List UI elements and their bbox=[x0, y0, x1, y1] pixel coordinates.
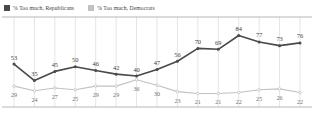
legend-swatch-republicans-icon bbox=[4, 5, 10, 11]
data-label: 70 bbox=[195, 38, 201, 45]
data-label: 77 bbox=[256, 31, 263, 38]
data-point bbox=[197, 92, 200, 95]
data-label: 76 bbox=[297, 32, 303, 39]
data-label: 69 bbox=[215, 39, 221, 46]
legend-label-republicans: % Too much, Republicans bbox=[13, 5, 74, 11]
data-label: 29 bbox=[11, 92, 17, 98]
line-chart-svg: 292427252929363023212122252622 533545504… bbox=[0, 16, 314, 123]
data-label: 53 bbox=[11, 54, 17, 61]
data-label: 46 bbox=[93, 60, 99, 67]
data-point bbox=[217, 92, 220, 95]
data-point bbox=[94, 85, 97, 88]
data-label: 50 bbox=[72, 56, 78, 63]
data-label: 23 bbox=[174, 98, 180, 104]
data-point bbox=[115, 73, 118, 76]
data-point bbox=[299, 91, 302, 94]
data-point bbox=[135, 75, 138, 78]
data-label: 30 bbox=[154, 91, 160, 97]
data-label: 29 bbox=[93, 92, 99, 98]
data-label: 25 bbox=[256, 96, 262, 102]
data-point bbox=[94, 69, 97, 72]
data-point bbox=[237, 34, 240, 37]
data-point bbox=[54, 87, 57, 90]
data-label: 24 bbox=[31, 97, 37, 103]
data-point bbox=[53, 70, 56, 73]
data-point bbox=[217, 48, 220, 51]
data-label: 22 bbox=[236, 99, 242, 105]
data-point bbox=[74, 65, 77, 68]
legend-swatch-democrats-icon bbox=[88, 5, 94, 11]
data-point bbox=[33, 79, 36, 82]
data-point bbox=[156, 84, 159, 87]
data-label: 29 bbox=[113, 92, 119, 98]
chart-plot-area: 292427252929363023212122252622 533545504… bbox=[0, 16, 314, 123]
data-point bbox=[33, 89, 36, 92]
data-label: 25 bbox=[72, 96, 78, 102]
legend-label-democrats: % Too much, Democrats bbox=[97, 5, 155, 11]
data-point bbox=[74, 89, 77, 92]
data-label: 84 bbox=[236, 25, 243, 32]
data-point bbox=[299, 41, 302, 44]
data-point bbox=[278, 44, 281, 47]
data-point bbox=[176, 60, 179, 63]
data-label: 21 bbox=[215, 99, 221, 105]
data-label: 27 bbox=[52, 94, 58, 100]
data-label: 26 bbox=[277, 95, 283, 101]
chart-legend: % Too much, Republicans % Too much, Demo… bbox=[4, 2, 155, 14]
data-point bbox=[13, 63, 16, 66]
data-label: 73 bbox=[276, 35, 282, 42]
data-point bbox=[278, 88, 281, 91]
data-point bbox=[258, 89, 261, 92]
legend-item-democrats: % Too much, Democrats bbox=[88, 5, 155, 11]
data-label: 56 bbox=[174, 51, 180, 58]
data-point bbox=[237, 91, 240, 94]
data-label: 21 bbox=[195, 99, 201, 105]
data-label: 35 bbox=[31, 70, 37, 77]
data-label: 45 bbox=[52, 61, 58, 68]
data-point bbox=[196, 47, 199, 50]
legend-item-republicans: % Too much, Republicans bbox=[4, 5, 74, 11]
data-label: 40 bbox=[133, 66, 139, 73]
chart-figure: % Too much, Republicans % Too much, Demo… bbox=[0, 0, 314, 123]
data-label: 36 bbox=[134, 86, 140, 92]
data-point bbox=[258, 40, 261, 43]
data-label: 42 bbox=[113, 64, 119, 71]
data-label: 22 bbox=[297, 99, 303, 105]
data-point bbox=[115, 85, 118, 88]
data-label: 47 bbox=[154, 59, 161, 66]
data-point bbox=[13, 85, 16, 88]
data-point bbox=[156, 68, 159, 71]
data-point bbox=[176, 90, 179, 93]
data-point bbox=[135, 78, 138, 81]
